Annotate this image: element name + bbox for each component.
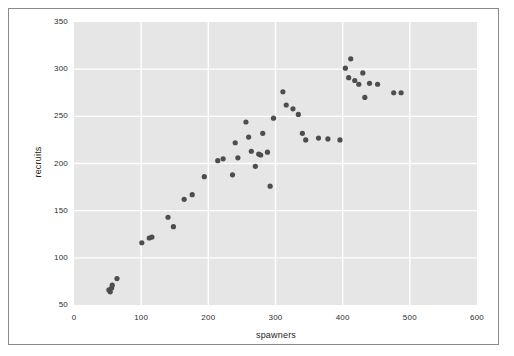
data-point [343, 66, 348, 71]
data-point [171, 224, 176, 229]
data-point [352, 78, 357, 83]
data-point [235, 155, 240, 160]
data-point [300, 131, 305, 136]
data-point [290, 106, 295, 111]
data-point [190, 192, 195, 197]
data-point [165, 215, 170, 220]
x-tick-label: 400 [323, 313, 363, 322]
data-point [182, 197, 187, 202]
data-point [399, 90, 404, 95]
data-point [202, 174, 207, 179]
data-point [360, 70, 365, 75]
x-tick-label: 100 [121, 313, 161, 322]
y-tick-label: 100 [38, 253, 68, 262]
x-tick-label: 600 [457, 313, 497, 322]
data-point [375, 82, 380, 87]
data-point [337, 137, 342, 142]
data-point [268, 184, 273, 189]
y-tick-label: 50 [38, 300, 68, 309]
data-point [346, 75, 351, 80]
data-point [110, 283, 115, 288]
data-point [265, 150, 270, 155]
data-point [243, 119, 248, 124]
data-point [230, 172, 235, 177]
x-tick-label: 0 [54, 313, 94, 322]
data-point [391, 90, 396, 95]
data-point [114, 276, 119, 281]
x-tick-label: 300 [256, 313, 296, 322]
data-point [149, 234, 154, 239]
data-point [249, 149, 254, 154]
data-point [316, 135, 321, 140]
data-point [362, 95, 367, 100]
y-tick-label: 350 [38, 17, 68, 26]
data-point [325, 136, 330, 141]
data-point [356, 82, 361, 87]
data-point [271, 116, 276, 121]
x-tick-label: 200 [188, 313, 228, 322]
scatter-plot [0, 0, 514, 356]
data-point [296, 112, 301, 117]
data-point [233, 140, 238, 145]
data-point [139, 240, 144, 245]
data-point [348, 56, 353, 61]
data-point [303, 137, 308, 142]
data-point [284, 102, 289, 107]
x-tick-label: 500 [390, 313, 430, 322]
data-point [280, 89, 285, 94]
data-point [258, 152, 263, 157]
data-point [221, 156, 226, 161]
x-axis-title: spawners [176, 330, 376, 340]
data-point [246, 134, 251, 139]
y-axis-title: recruits [33, 102, 43, 222]
y-tick-label: 300 [38, 64, 68, 73]
data-point [253, 164, 258, 169]
data-point [260, 131, 265, 136]
data-point [215, 158, 220, 163]
data-point [367, 81, 372, 86]
